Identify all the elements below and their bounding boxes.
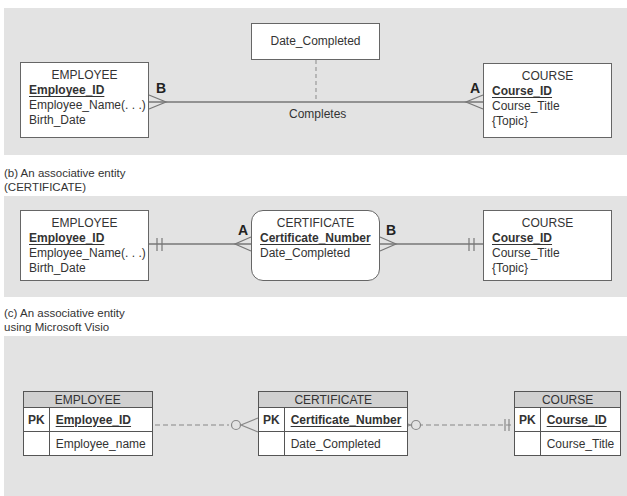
visio-table-employee[interactable]: EMPLOYEE PK Employee_ID Employee_name <box>23 391 153 456</box>
empty-marker <box>515 432 541 456</box>
cardinality-label-a: A <box>238 222 248 238</box>
relationship-name: Completes <box>289 107 346 121</box>
table-title: COURSE <box>515 392 621 408</box>
pk-marker: PK <box>515 408 541 432</box>
attribute: {Topic} <box>484 114 611 129</box>
table-title: EMPLOYEE <box>24 392 153 408</box>
primary-key: Certificate_Number <box>284 408 408 432</box>
primary-key: Employee_ID <box>21 83 148 98</box>
visio-table-certificate[interactable]: CERTIFICATE PK Certificate_Number Date_C… <box>258 391 408 456</box>
relationship-attribute-label: Date_Completed <box>270 34 360 49</box>
entity-course-b[interactable]: COURSE Course_ID Course_Title {Topic} <box>483 210 612 281</box>
primary-key: Course_ID <box>540 408 621 432</box>
visio-table-course[interactable]: COURSE PK Course_ID Course_Title <box>514 391 621 456</box>
empty-marker <box>24 432 50 456</box>
attribute: Date_Completed <box>252 246 379 261</box>
attribute: {Topic} <box>484 261 611 276</box>
entity-title: CERTIFICATE <box>252 216 379 231</box>
empty-marker <box>259 432 285 456</box>
attribute: Employee_name <box>49 432 152 456</box>
caption-line: using Microsoft Visio <box>4 320 125 334</box>
cardinality-label-a: A <box>470 80 480 96</box>
attribute: Course_Title <box>540 432 621 456</box>
entity-employee-a[interactable]: EMPLOYEE Employee_ID Employee_Name(. . .… <box>20 62 149 138</box>
attribute: Course_Title <box>484 99 611 114</box>
entity-title: COURSE <box>484 216 611 231</box>
caption-b: (b) An associative entity (CERTIFICATE) <box>4 166 125 194</box>
primary-key: Employee_ID <box>21 231 148 246</box>
caption-c: (c) An associative entity using Microsof… <box>4 306 125 334</box>
attribute: Employee_Name(. . .) <box>21 246 148 261</box>
primary-key: Course_ID <box>484 231 611 246</box>
caption-line: (c) An associative entity <box>4 306 125 320</box>
attribute: Date_Completed <box>284 432 408 456</box>
primary-key: Employee_ID <box>49 408 152 432</box>
caption-line: (b) An associative entity <box>4 166 125 180</box>
attribute: Birth_Date <box>21 113 148 128</box>
entity-title: COURSE <box>484 69 611 84</box>
entity-course-a[interactable]: COURSE Course_ID Course_Title {Topic} <box>483 63 612 138</box>
primary-key: Course_ID <box>484 84 611 99</box>
cardinality-label-b: B <box>386 222 396 238</box>
attribute: Birth_Date <box>21 261 148 276</box>
relationship-attribute-box[interactable]: Date_Completed <box>251 23 380 60</box>
cardinality-label-b: B <box>156 80 166 96</box>
entity-title: EMPLOYEE <box>21 68 148 83</box>
table-title: CERTIFICATE <box>259 392 408 408</box>
entity-title: EMPLOYEE <box>21 216 148 231</box>
associative-entity-certificate[interactable]: CERTIFICATE Certificate_Number Date_Comp… <box>251 210 380 281</box>
attribute: Employee_Name(. . .) <box>21 98 148 113</box>
primary-key: Certificate_Number <box>252 231 379 246</box>
pk-marker: PK <box>24 408 50 432</box>
entity-employee-b[interactable]: EMPLOYEE Employee_ID Employee_Name(. . .… <box>20 210 149 281</box>
attribute: Course_Title <box>484 246 611 261</box>
pk-marker: PK <box>259 408 285 432</box>
caption-line: (CERTIFICATE) <box>4 180 125 194</box>
